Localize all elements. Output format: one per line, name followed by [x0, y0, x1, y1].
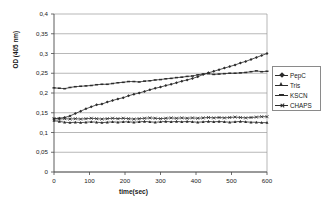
data-point: [170, 83, 173, 86]
data-point: [90, 105, 93, 108]
data-point: [191, 77, 194, 80]
data-point: [164, 84, 167, 87]
legend-item-pepc: PepC: [275, 70, 318, 80]
data-point: [127, 94, 130, 97]
y-tick-label: 0,2: [0, 89, 48, 96]
data-point: [122, 96, 125, 99]
data-point: [159, 86, 162, 89]
legend-marker-diamond-icon: [275, 71, 288, 80]
data-point: [79, 110, 82, 113]
data-point: [196, 75, 199, 78]
y-tick-label: 0,25: [0, 69, 48, 76]
y-tick-label: 0,3: [0, 50, 48, 57]
legend-marker-cross-icon: [275, 101, 288, 110]
data-point: [250, 58, 253, 61]
data-point: [154, 87, 157, 90]
legend-marker-triangle-icon: [275, 81, 288, 90]
data-point: [143, 90, 146, 93]
x-axis-title: time(sec): [0, 188, 267, 195]
x-tick-label: 300: [149, 177, 173, 184]
data-point: [84, 107, 87, 110]
chart-legend: PepC Tris KSCN CHAPS: [272, 66, 321, 111]
x-tick-label: 0: [42, 177, 66, 184]
data-point: [138, 92, 141, 95]
y-tick-label: 0,1: [0, 129, 48, 136]
data-point: [106, 101, 109, 104]
data-point: [212, 70, 215, 73]
data-point: [100, 103, 103, 106]
data-point: [148, 88, 151, 91]
y-axis-title: OD (405 nm): [12, 55, 19, 69]
y-tick-label: 0,4: [0, 10, 48, 17]
data-point: [244, 60, 247, 63]
y-tick-label: 0: [0, 168, 48, 175]
legend-label: KSCN: [288, 92, 308, 99]
legend-label: Tris: [288, 82, 300, 89]
data-point: [260, 54, 263, 57]
legend-label: CHAPS: [288, 102, 312, 109]
data-point: [223, 67, 226, 70]
data-point: [266, 52, 269, 55]
chart-container: OD (405 nm) time(sec) 00,050,10,150,20,2…: [0, 0, 329, 207]
x-tick-label: 400: [184, 177, 208, 184]
data-point: [95, 103, 98, 106]
y-tick-label: 0,15: [0, 109, 48, 116]
data-point: [186, 78, 189, 81]
legend-item-kscn: KSCN: [275, 90, 318, 100]
legend-item-chaps: CHAPS: [275, 100, 318, 110]
legend-marker-dash-icon: [275, 91, 288, 100]
data-point: [239, 61, 242, 64]
x-tick-label: 600: [255, 177, 279, 184]
x-tick-label: 500: [220, 177, 244, 184]
legend-label: PepC: [288, 72, 306, 79]
x-tick-label: 100: [78, 177, 102, 184]
data-point: [116, 97, 119, 100]
legend-item-tris: Tris: [275, 80, 318, 90]
data-point: [228, 65, 231, 68]
data-point: [111, 99, 114, 102]
data-point: [234, 63, 237, 66]
data-point: [255, 56, 258, 59]
y-tick-label: 0,05: [0, 148, 48, 155]
x-tick-label: 200: [113, 177, 137, 184]
data-point: [218, 68, 221, 71]
data-point: [68, 114, 71, 117]
data-point: [175, 81, 178, 84]
data-point: [180, 80, 183, 83]
y-tick-label: 0,35: [0, 30, 48, 37]
